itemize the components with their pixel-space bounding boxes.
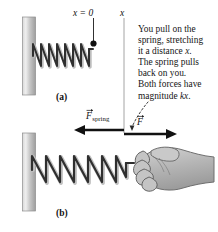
- callout-line-3-text: it a distance: [138, 46, 185, 56]
- x-axis-label: x: [120, 8, 124, 18]
- callout-line-4: The spring pulls: [138, 57, 216, 68]
- force-spring-symbol-text: F: [86, 111, 92, 121]
- vector-arrow-icon: [86, 108, 94, 112]
- force-hand-symbol: F: [137, 117, 143, 127]
- panel-b-letter-text: (b): [56, 208, 68, 218]
- force-spring-symbol: F: [86, 111, 92, 121]
- callout-line-1: You pull on the: [138, 24, 216, 35]
- force-hand-arrow: [122, 128, 178, 140]
- callout-line-3: it a distance x.: [138, 46, 216, 57]
- panel-a-letter: (a): [56, 92, 67, 102]
- spring-force-figure: x = 0 x (a) You pull on the spring, stre…: [0, 0, 218, 232]
- force-spring-label: F spring: [86, 111, 109, 121]
- spring-stretched: [28, 148, 138, 190]
- callout-line-7-tail: .: [188, 91, 190, 101]
- force-spring-arrow: [73, 124, 126, 136]
- callout-line-2: spring, stretching: [138, 35, 216, 46]
- callout-line-5: back on you.: [138, 68, 216, 79]
- callout-line-6: Both forces have: [138, 79, 216, 90]
- panel-a-letter-text: (a): [56, 92, 67, 102]
- callout-line-7-italic: kx: [180, 91, 188, 101]
- force-hand-label: F: [137, 117, 143, 127]
- force-hand-symbol-text: F: [137, 117, 143, 127]
- vector-arrow-icon: [137, 114, 145, 118]
- origin-leader-line: [88, 18, 102, 50]
- callout-line-3-tail: .: [189, 46, 191, 56]
- origin-label: x = 0: [73, 8, 93, 18]
- callout-text-block: You pull on the spring, stretching it a …: [138, 24, 216, 102]
- panel-b-letter: (b): [56, 208, 68, 218]
- origin-label-text: x = 0: [73, 8, 93, 18]
- callout-line-2-text: spring, stretching: [138, 35, 203, 45]
- hand-icon: [131, 142, 215, 206]
- force-spring-subscript: spring: [92, 115, 109, 122]
- x-axis-label-text: x: [120, 8, 124, 18]
